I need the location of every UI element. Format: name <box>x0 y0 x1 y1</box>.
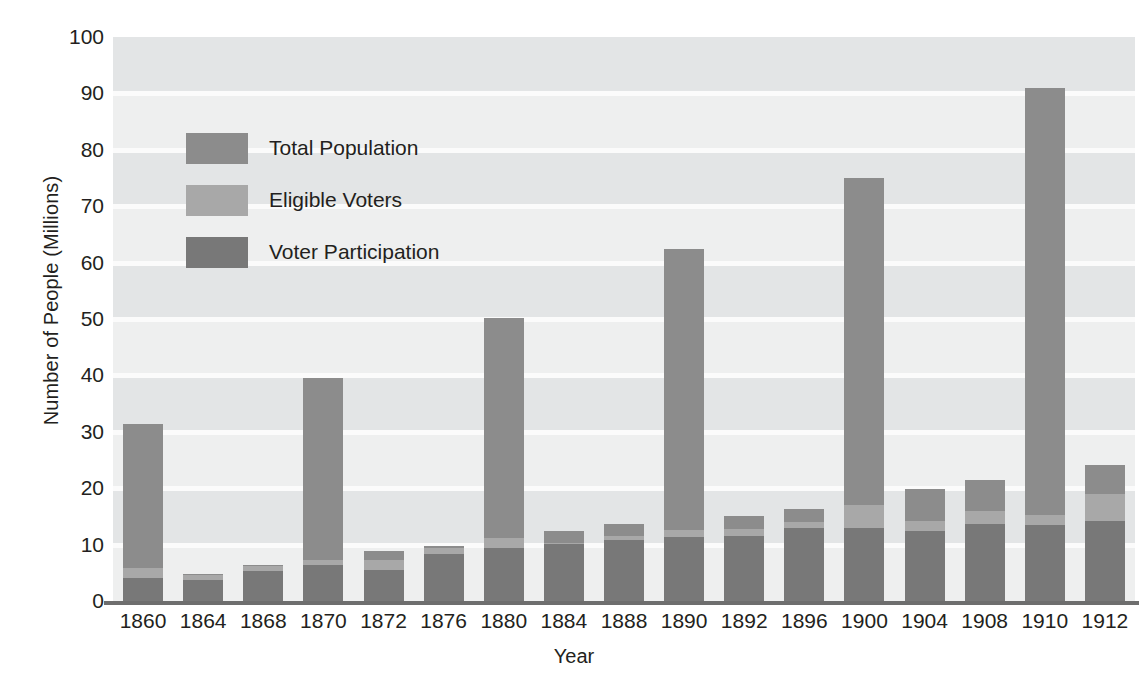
legend-item-label: Voter Participation <box>269 240 439 264</box>
bar-group[interactable] <box>424 546 464 601</box>
bar-group[interactable] <box>364 551 404 601</box>
y-axis-tick-label: 0 <box>42 590 104 611</box>
bar-segment-voter-participation[interactable] <box>1025 525 1065 601</box>
bar-group[interactable] <box>123 424 163 601</box>
legend-item[interactable]: Voter Participation <box>186 230 439 274</box>
bar-group[interactable] <box>1025 88 1065 601</box>
y-axis-tick-label: 100 <box>42 26 104 47</box>
bar-group[interactable] <box>303 378 343 601</box>
x-axis-tick-label: 1910 <box>1015 607 1075 635</box>
legend-swatch-icon <box>186 185 248 216</box>
legend: Total PopulationEligible VotersVoter Par… <box>186 126 439 282</box>
bar-segment-voter-participation[interactable] <box>784 528 824 601</box>
x-axis-tick-label: 1860 <box>113 607 173 635</box>
x-axis-tick-label: 1864 <box>173 607 233 635</box>
y-axis-tick-label: 80 <box>42 139 104 160</box>
bar-segment-voter-participation[interactable] <box>905 531 945 601</box>
legend-item[interactable]: Eligible Voters <box>186 178 439 222</box>
bar-segment-voter-participation[interactable] <box>844 528 884 601</box>
legend-swatch-icon <box>186 237 248 268</box>
bar-group[interactable] <box>664 249 704 602</box>
y-axis-tick-label: 50 <box>42 308 104 329</box>
y-axis-tick-label: 40 <box>42 364 104 385</box>
bar-group[interactable] <box>905 489 945 601</box>
y-axis-tick-label: 20 <box>42 477 104 498</box>
bar-segment-voter-participation[interactable] <box>123 578 163 601</box>
x-axis-tick-label: 1890 <box>654 607 714 635</box>
bar-segment-voter-participation[interactable] <box>965 524 1005 601</box>
bar-segment-voter-participation[interactable] <box>664 537 704 601</box>
bar-segment-voter-participation[interactable] <box>484 548 524 601</box>
y-axis-tick-label: 30 <box>42 421 104 442</box>
bar-group[interactable] <box>604 524 644 601</box>
x-axis-tick-label: 1908 <box>955 607 1015 635</box>
x-axis-tick-label: 1892 <box>714 607 774 635</box>
bar-segment-voter-participation[interactable] <box>303 565 343 601</box>
legend-item-label: Total Population <box>269 136 418 160</box>
bar-group[interactable] <box>544 531 584 601</box>
bar-chart: Number of People (Millions) 010203040506… <box>0 0 1148 681</box>
x-axis-line <box>104 601 1139 605</box>
bar-group[interactable] <box>724 516 764 601</box>
bar-segment-voter-participation[interactable] <box>724 536 764 601</box>
bar-segment-voter-participation[interactable] <box>243 571 283 601</box>
bar-segment-voter-participation[interactable] <box>424 554 464 601</box>
y-axis-tick-label: 60 <box>42 252 104 273</box>
bar-segment-voter-participation[interactable] <box>1085 521 1125 601</box>
y-axis-tick-label: 10 <box>42 534 104 555</box>
x-axis-tick-label: 1884 <box>534 607 594 635</box>
y-axis-tick-label: 70 <box>42 195 104 216</box>
bar-group[interactable] <box>183 574 223 601</box>
bar-group[interactable] <box>243 565 283 601</box>
legend-item[interactable]: Total Population <box>186 126 439 170</box>
y-axis-tick-label: 90 <box>42 82 104 103</box>
x-axis-tick-label: 1876 <box>414 607 474 635</box>
legend-swatch-icon <box>186 133 248 164</box>
x-axis-tick-label: 1880 <box>474 607 534 635</box>
x-axis-tick-label: 1900 <box>834 607 894 635</box>
bar-segment-voter-participation[interactable] <box>604 540 644 601</box>
x-axis-title: Year <box>0 645 1148 668</box>
bar-segment-voter-participation[interactable] <box>544 544 584 601</box>
plot-area <box>113 37 1135 601</box>
bar-group[interactable] <box>784 509 824 601</box>
x-axis-tick-label: 1870 <box>293 607 353 635</box>
bars-layer <box>113 37 1135 601</box>
x-axis-tick-label: 1888 <box>594 607 654 635</box>
x-axis-tick-label: 1896 <box>774 607 834 635</box>
bar-group[interactable] <box>965 480 1005 601</box>
bar-segment-voter-participation[interactable] <box>364 570 404 601</box>
y-axis-tick-labels: 0102030405060708090100 <box>42 0 104 681</box>
legend-item-label: Eligible Voters <box>269 188 402 212</box>
bar-group[interactable] <box>844 178 884 601</box>
x-axis-tick-label: 1912 <box>1075 607 1135 635</box>
x-axis-tick-label: 1872 <box>353 607 413 635</box>
bar-group[interactable] <box>1085 465 1125 601</box>
y-axis-tickmark <box>104 601 113 604</box>
bar-segment-voter-participation[interactable] <box>183 580 223 601</box>
x-axis-tick-label: 1904 <box>895 607 955 635</box>
x-axis-tick-label: 1868 <box>233 607 293 635</box>
x-axis-tick-labels: 1860186418681870187218761880188418881890… <box>113 607 1135 641</box>
bar-group[interactable] <box>484 318 524 601</box>
